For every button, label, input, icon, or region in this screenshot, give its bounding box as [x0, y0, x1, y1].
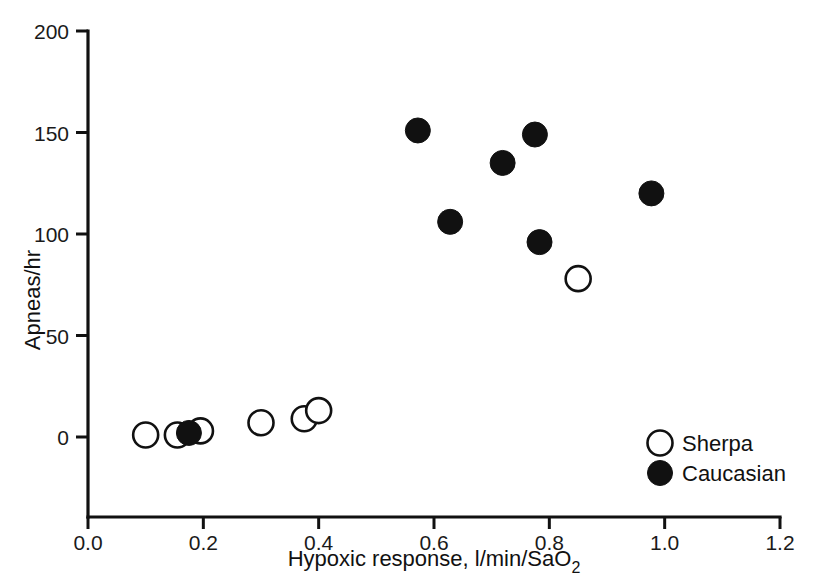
y-axis-title: Apneas/hr: [20, 250, 45, 350]
data-point: [527, 230, 552, 255]
axes: [76, 31, 780, 529]
x-axis-title: Hypoxic response, l/min/SaO2: [288, 546, 581, 576]
y-tick-label: 200: [34, 20, 69, 43]
data-points-layer: [133, 118, 664, 448]
y-tick-label: 100: [34, 223, 69, 246]
data-point: [438, 209, 463, 234]
data-point: [306, 398, 331, 423]
legend-marker-sherpa: [648, 431, 673, 456]
y-axis-tick-labels: 050100150200: [34, 20, 69, 449]
legend-marker-caucasian: [648, 461, 673, 486]
legend: SherpaCaucasian: [648, 431, 786, 487]
data-point: [522, 122, 547, 147]
legend-label-caucasian: Caucasian: [682, 461, 786, 486]
data-point: [176, 420, 201, 445]
scatter-plot-figure: 050100150200 0.00.20.40.60.81.01.2 Apnea…: [0, 0, 814, 587]
x-axis-ticks: [88, 517, 780, 529]
data-point: [133, 422, 158, 447]
x-tick-label: 1.2: [765, 531, 794, 554]
y-tick-label: 50: [46, 325, 69, 348]
x-tick-label: 0.2: [189, 531, 218, 554]
plot-canvas: 050100150200 0.00.20.40.60.81.01.2 Apnea…: [0, 0, 814, 587]
data-point: [566, 266, 591, 291]
x-tick-label: 0.0: [73, 531, 102, 554]
y-axis-ticks: [76, 31, 88, 437]
legend-label-sherpa: Sherpa: [682, 431, 754, 456]
x-axis-title-main: Hypoxic response, l/min/SaO: [288, 546, 572, 571]
series-sherpa: [133, 266, 591, 447]
data-point: [639, 181, 664, 206]
y-tick-label: 150: [34, 122, 69, 145]
data-point: [490, 150, 515, 175]
data-point: [249, 410, 274, 435]
y-tick-label: 0: [57, 426, 69, 449]
x-axis-title-subscript: 2: [571, 559, 580, 576]
data-point: [405, 118, 430, 143]
x-tick-label: 1.0: [650, 531, 679, 554]
